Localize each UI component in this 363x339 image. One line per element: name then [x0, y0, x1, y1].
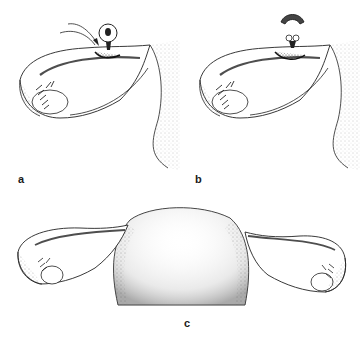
panel-a-drawing	[20, 24, 180, 170]
anatomical-figure: a b c	[0, 0, 363, 339]
panel-b-drawing	[200, 15, 360, 171]
panel-label-a: a	[18, 174, 24, 185]
panel-label-c: c	[184, 318, 190, 329]
figure-drawing	[0, 0, 363, 339]
panel-c-drawing	[18, 208, 346, 305]
panel-label-b: b	[195, 174, 202, 185]
